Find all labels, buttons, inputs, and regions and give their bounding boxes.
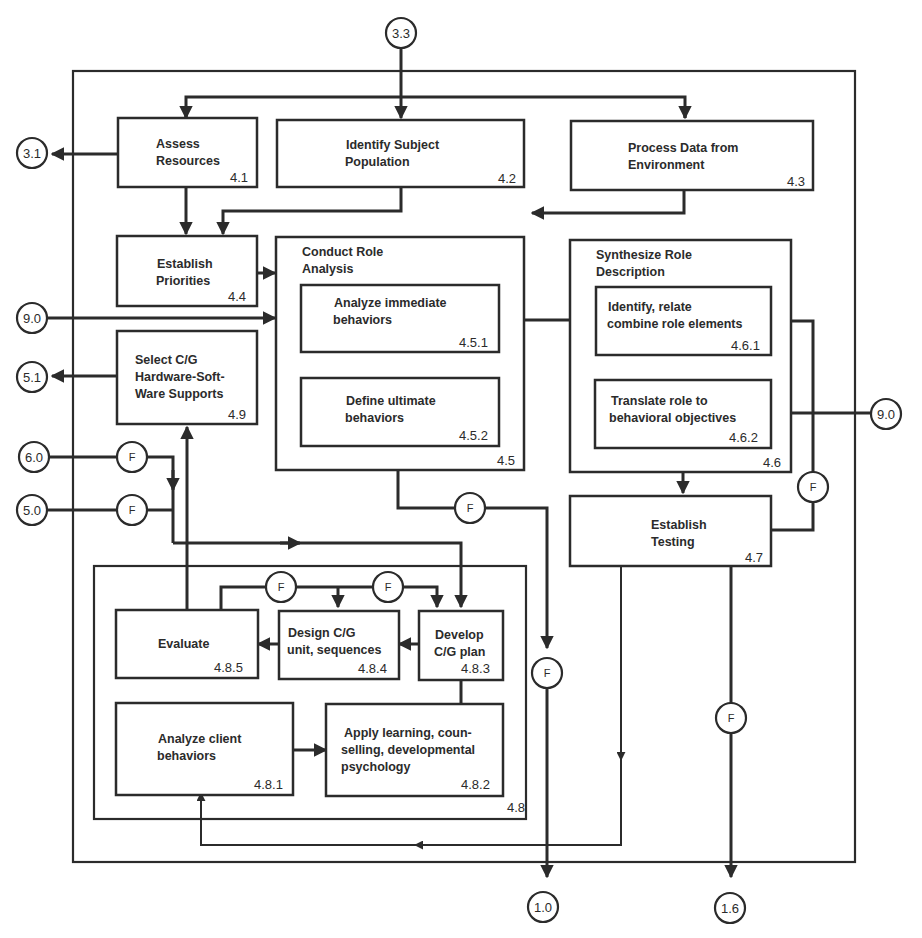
connector-1-0[interactable]: 1.0	[528, 892, 558, 922]
svg-text:9.0: 9.0	[23, 311, 41, 326]
svg-text:4.5.1: 4.5.1	[459, 335, 488, 350]
svg-text:Develop: Develop	[435, 628, 484, 642]
svg-text:Design C/G: Design C/G	[288, 626, 355, 640]
svg-text:4.8.3: 4.8.3	[461, 661, 490, 676]
svg-text:4.9: 4.9	[228, 407, 246, 422]
svg-text:behaviors: behaviors	[157, 749, 216, 763]
connector-6-0[interactable]: 6.0	[19, 442, 49, 472]
svg-text:Select C/G: Select C/G	[135, 353, 198, 367]
feedback-node-4-7: F	[798, 472, 828, 502]
svg-text:Assess: Assess	[156, 137, 200, 151]
feedback-node-4-8-b: F	[373, 572, 403, 602]
svg-text:6.0: 6.0	[25, 450, 43, 465]
svg-text:Process Data from: Process Data from	[628, 141, 738, 155]
connector-5-0[interactable]: 5.0	[17, 495, 47, 525]
node-4-6-1[interactable]: Identify, relate combine role elements 4…	[596, 287, 771, 355]
flow-diagram: 4.8 Assess Resources 4.1 Identify Subjec…	[0, 0, 922, 938]
svg-text:Identify, relate: Identify, relate	[608, 300, 692, 314]
svg-text:Analyze client: Analyze client	[158, 732, 242, 746]
svg-text:C/G plan: C/G plan	[434, 645, 485, 659]
svg-text:psychology: psychology	[341, 760, 411, 774]
svg-text:4.8.4: 4.8.4	[358, 661, 387, 676]
svg-text:4.8.2: 4.8.2	[461, 777, 490, 792]
svg-text:F: F	[129, 451, 136, 463]
node-4-8-2[interactable]: Apply learning, coun- selling, developme…	[326, 704, 503, 796]
svg-text:4.5: 4.5	[497, 453, 515, 468]
node-4-1[interactable]: Assess Resources 4.1	[118, 118, 257, 187]
svg-text:Description: Description	[596, 265, 665, 279]
svg-text:Conduct Role: Conduct Role	[302, 245, 383, 259]
connector-3-1[interactable]: 3.1	[17, 138, 47, 168]
svg-text:4.8.5: 4.8.5	[214, 660, 243, 675]
feedback-node-5-0: F	[117, 495, 147, 525]
svg-text:Establish: Establish	[157, 257, 213, 271]
svg-text:1.6: 1.6	[721, 901, 739, 916]
node-4-8-3[interactable]: Develop C/G plan 4.8.3	[419, 611, 503, 680]
node-4-6-2[interactable]: Translate role to behavioral objectives …	[595, 380, 771, 448]
feedback-node-to-1-6: F	[716, 703, 746, 733]
svg-text:Synthesize Role: Synthesize Role	[596, 248, 692, 262]
svg-text:Establish: Establish	[651, 518, 707, 532]
svg-text:Population: Population	[345, 155, 410, 169]
svg-text:Hardware-Soft-: Hardware-Soft-	[135, 370, 225, 384]
node-4-8-1[interactable]: Analyze client behaviors 4.8.1	[116, 703, 293, 795]
connector-1-6[interactable]: 1.6	[715, 893, 745, 923]
node-4-8-5[interactable]: Evaluate 4.8.5	[116, 610, 258, 678]
svg-text:F: F	[129, 504, 136, 516]
feedback-node-6-0: F	[117, 442, 147, 472]
svg-text:Priorities: Priorities	[156, 274, 210, 288]
node-4-5-1[interactable]: Analyze immediate behaviors 4.5.1	[301, 285, 499, 352]
svg-text:4.4: 4.4	[228, 289, 246, 304]
connector-3-3[interactable]: 3.3	[386, 18, 416, 48]
node-4-8-4[interactable]: Design C/G unit, sequences 4.8.4	[279, 611, 399, 679]
svg-text:selling, developmental: selling, developmental	[341, 743, 475, 757]
svg-text:Translate role to: Translate role to	[611, 394, 708, 408]
svg-text:behavioral objectives: behavioral objectives	[609, 411, 736, 425]
svg-text:4.6: 4.6	[763, 455, 781, 470]
svg-text:F: F	[544, 667, 551, 679]
svg-text:F: F	[278, 581, 285, 593]
svg-text:3.3: 3.3	[392, 26, 410, 41]
node-4-2[interactable]: Identify Subject Population 4.2	[277, 120, 524, 187]
svg-text:F: F	[728, 712, 735, 724]
svg-text:1.0: 1.0	[534, 900, 552, 915]
svg-text:F: F	[467, 502, 474, 514]
svg-text:Environment: Environment	[628, 158, 705, 172]
svg-text:5.0: 5.0	[23, 503, 41, 518]
svg-text:Analyze immediate: Analyze immediate	[334, 296, 447, 310]
feedback-node-4-5-out: F	[455, 493, 485, 523]
svg-text:5.1: 5.1	[23, 370, 41, 385]
svg-text:unit, sequences: unit, sequences	[287, 643, 382, 657]
svg-text:4.6.1: 4.6.1	[731, 338, 760, 353]
feedback-node-4-8-a: F	[266, 572, 296, 602]
svg-text:Testing: Testing	[651, 535, 695, 549]
svg-text:F: F	[385, 581, 392, 593]
node-4-4[interactable]: Establish Priorities 4.4	[117, 236, 257, 306]
svg-text:4.2: 4.2	[498, 171, 516, 186]
connector-9-0-right[interactable]: 9.0	[871, 399, 901, 429]
feedback-node-to-1-0: F	[532, 658, 562, 688]
svg-text:behaviors: behaviors	[333, 313, 392, 327]
node-4-5-2[interactable]: Define ultimate behaviors 4.5.2	[301, 378, 499, 446]
node-4-9[interactable]: Select C/G Hardware-Soft- Ware Supports …	[117, 331, 257, 424]
connector-5-1[interactable]: 5.1	[17, 362, 47, 392]
svg-text:Apply learning, coun-: Apply learning, coun-	[344, 726, 472, 740]
svg-text:3.1: 3.1	[23, 146, 41, 161]
connector-9-0-left[interactable]: 9.0	[17, 303, 47, 333]
svg-text:4.3: 4.3	[787, 174, 805, 189]
group-4-8-number: 4.8	[507, 800, 525, 815]
svg-text:4.1: 4.1	[230, 170, 248, 185]
svg-text:4.7: 4.7	[745, 550, 763, 565]
node-4-7[interactable]: Establish Testing 4.7	[570, 496, 771, 566]
svg-text:Define ultimate: Define ultimate	[346, 394, 436, 408]
svg-text:9.0: 9.0	[877, 407, 895, 422]
svg-text:Identify Subject: Identify Subject	[346, 138, 440, 152]
svg-text:combine role elements: combine role elements	[607, 317, 743, 331]
svg-text:Ware Supports: Ware Supports	[135, 387, 223, 401]
svg-text:Evaluate: Evaluate	[158, 637, 209, 651]
node-4-3[interactable]: Process Data from Environment 4.3	[571, 121, 813, 190]
svg-text:F: F	[810, 481, 817, 493]
svg-text:Analysis: Analysis	[302, 262, 353, 276]
svg-text:Resources: Resources	[156, 154, 220, 168]
svg-text:behaviors: behaviors	[345, 411, 404, 425]
